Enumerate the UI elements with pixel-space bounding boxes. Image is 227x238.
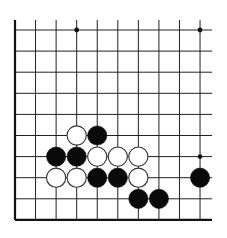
black-stone[interactable] xyxy=(108,168,127,187)
white-stone[interactable] xyxy=(129,168,148,187)
black-stone[interactable] xyxy=(67,147,86,166)
white-stone[interactable] xyxy=(67,126,86,145)
star-point-icon xyxy=(74,28,79,33)
black-stone[interactable] xyxy=(47,147,66,166)
black-stone[interactable] xyxy=(88,126,107,145)
stones-layer xyxy=(47,126,210,208)
black-stone[interactable] xyxy=(190,168,209,187)
go-board[interactable] xyxy=(0,0,227,238)
black-stone[interactable] xyxy=(149,189,168,208)
star-point-icon xyxy=(198,154,203,159)
white-stone[interactable] xyxy=(88,147,107,166)
black-stone[interactable] xyxy=(129,189,148,208)
white-stone[interactable] xyxy=(67,168,86,187)
white-stone[interactable] xyxy=(108,147,127,166)
white-stone[interactable] xyxy=(129,147,148,166)
board-grid xyxy=(15,20,212,220)
white-stone[interactable] xyxy=(47,168,66,187)
black-stone[interactable] xyxy=(88,168,107,187)
star-point-icon xyxy=(198,28,203,33)
